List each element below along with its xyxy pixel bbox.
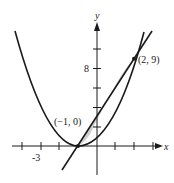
x-tick-label: -3 bbox=[32, 152, 40, 163]
point-label-minus1-0: (−1, 0) bbox=[54, 116, 81, 128]
y-tick-label: 8 bbox=[84, 63, 89, 74]
graph: x y -3 8 (−1, 0) (2, 9) bbox=[0, 0, 174, 183]
point-2-9 bbox=[132, 57, 136, 61]
y-axis-arrow-icon bbox=[94, 22, 100, 31]
line-curve bbox=[62, 31, 152, 170]
x-axis-label: x bbox=[163, 141, 169, 152]
y-axis-label: y bbox=[94, 10, 100, 21]
point-label-2-9: (2, 9) bbox=[138, 54, 160, 66]
x-axis-arrow-icon bbox=[155, 143, 163, 149]
parabola-curve bbox=[15, 31, 144, 146]
point-minus1-0 bbox=[76, 144, 80, 148]
